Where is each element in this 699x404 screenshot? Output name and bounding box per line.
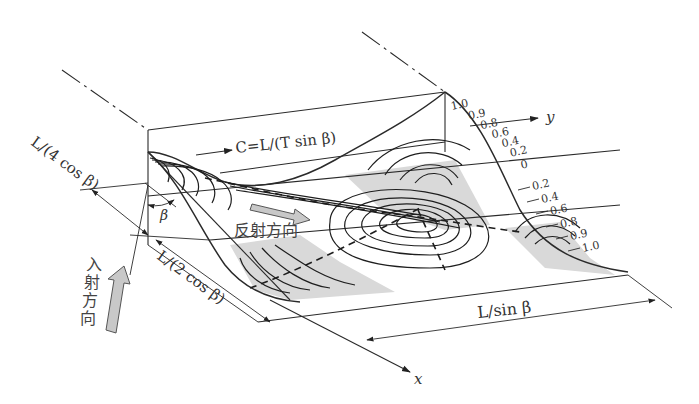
level-label: 0.6 [549,202,569,218]
level-label: 0 [519,158,529,172]
wave-surface-diagram: y x C=L/(T sin β) 1.0 0.9 0.8 0.6 0.4 0.… [0,0,699,404]
beta-ray [145,183,176,207]
angle-beta: β [145,183,176,223]
slab-top-front-edge [148,92,445,130]
reflected-direction: 反射方向 [234,204,310,240]
incident-char: 射 [84,273,100,292]
quarter-dimension-label: L/(4 cos β) [28,133,103,194]
level-label: 1.0 [581,239,601,255]
incident-char: 入 [86,255,102,274]
beta-label: β [159,207,168,223]
celerity-arrow [196,150,232,155]
contours [150,140,580,293]
incident-char: 向 [80,309,96,328]
incident-ray [130,185,148,275]
celerity-annotation: C=L/(T sin β) [196,129,337,157]
reflected-direction-label: 反射方向 [234,221,298,240]
level-label: 0.2 [531,177,551,193]
slab-right-edge [362,32,445,92]
slab-left-edge [62,70,148,130]
celerity-label: C=L/(T sin β) [235,129,337,157]
half-dimension-label: L/(2 cos β) [154,247,229,308]
contour-labels-top: 1.0 0.9 0.8 0.6 0.4 0.2 0 [450,87,532,184]
y-axis-label: y [545,108,555,126]
incident-arrow-icon [106,266,130,333]
incident-char: 方 [82,291,98,310]
x-axis-arrow [270,300,410,372]
x-axis-label: x [414,370,423,388]
